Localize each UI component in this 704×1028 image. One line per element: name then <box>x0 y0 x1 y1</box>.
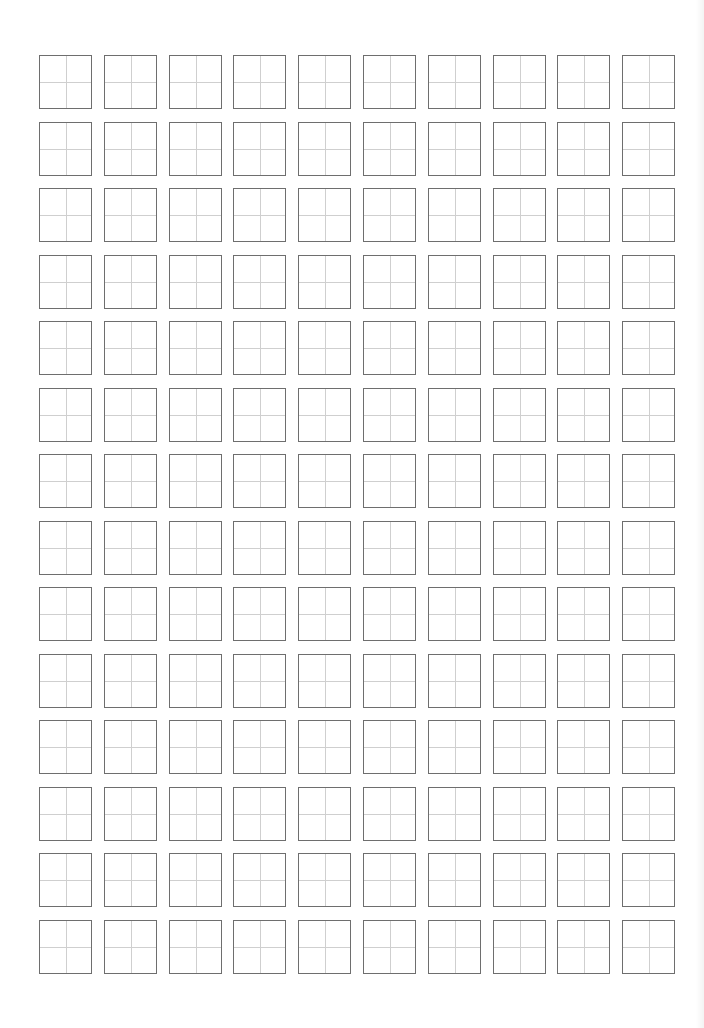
tianzige-box <box>557 321 610 375</box>
tianzige-box <box>622 55 675 109</box>
tianzige-box <box>233 454 286 508</box>
tianzige-box <box>233 255 286 309</box>
tianzige-box <box>298 787 351 841</box>
tianzige-box <box>557 787 610 841</box>
tianzige-box <box>39 454 92 508</box>
tianzige-box <box>298 521 351 575</box>
tianzige-box <box>363 920 416 974</box>
tianzige-box <box>39 321 92 375</box>
tianzige-box <box>233 654 286 708</box>
tianzige-box <box>493 920 546 974</box>
tianzige-box <box>169 255 222 309</box>
tianzige-box <box>233 787 286 841</box>
tianzige-box <box>104 654 157 708</box>
tianzige-box <box>557 720 610 774</box>
tianzige-box <box>104 853 157 907</box>
tianzige-box <box>298 587 351 641</box>
tianzige-box <box>169 720 222 774</box>
tianzige-box <box>363 654 416 708</box>
tianzige-box <box>39 521 92 575</box>
tianzige-box <box>557 255 610 309</box>
tianzige-box <box>169 321 222 375</box>
tianzige-box <box>428 920 481 974</box>
tianzige-box <box>428 388 481 442</box>
tianzige-box <box>233 920 286 974</box>
tianzige-box <box>233 122 286 176</box>
tianzige-box <box>233 55 286 109</box>
tianzige-box <box>493 654 546 708</box>
tianzige-box <box>298 454 351 508</box>
tianzige-box <box>622 388 675 442</box>
tianzige-box <box>557 55 610 109</box>
tianzige-box <box>169 521 222 575</box>
tianzige-box <box>39 853 92 907</box>
tianzige-box <box>622 321 675 375</box>
tianzige-box <box>363 388 416 442</box>
tianzige-box <box>428 454 481 508</box>
tianzige-box <box>428 720 481 774</box>
tianzige-box <box>39 122 92 176</box>
tianzige-box <box>493 55 546 109</box>
tianzige-box <box>622 188 675 242</box>
tianzige-box <box>169 587 222 641</box>
tianzige-box <box>428 521 481 575</box>
tianzige-box <box>493 188 546 242</box>
tianzige-box <box>39 787 92 841</box>
tianzige-box <box>428 188 481 242</box>
tianzige-box <box>233 188 286 242</box>
tianzige-box <box>622 654 675 708</box>
tianzige-box <box>104 321 157 375</box>
tianzige-box <box>363 587 416 641</box>
tianzige-box <box>428 587 481 641</box>
tianzige-box <box>233 321 286 375</box>
tianzige-box <box>622 787 675 841</box>
tianzige-box <box>493 454 546 508</box>
tianzige-box <box>363 188 416 242</box>
tianzige-box <box>233 521 286 575</box>
tianzige-box <box>104 920 157 974</box>
tianzige-box <box>622 920 675 974</box>
tianzige-box <box>363 521 416 575</box>
tianzige-box <box>557 587 610 641</box>
tianzige-box <box>104 521 157 575</box>
tianzige-box <box>233 720 286 774</box>
tianzige-box <box>622 521 675 575</box>
tianzige-box <box>363 255 416 309</box>
tianzige-box <box>169 654 222 708</box>
tianzige-box <box>622 720 675 774</box>
tianzige-box <box>557 188 610 242</box>
tianzige-box <box>363 454 416 508</box>
tianzige-box <box>298 255 351 309</box>
tianzige-box <box>169 920 222 974</box>
tianzige-box <box>169 853 222 907</box>
tianzige-box <box>557 853 610 907</box>
tianzige-box <box>428 321 481 375</box>
tianzige-box <box>428 122 481 176</box>
tianzige-box <box>622 454 675 508</box>
page-edge-shadow <box>696 0 704 1028</box>
tianzige-box <box>298 55 351 109</box>
tianzige-box <box>428 787 481 841</box>
tianzige-box <box>493 587 546 641</box>
tianzige-box <box>39 388 92 442</box>
tianzige-box <box>493 321 546 375</box>
tianzige-box <box>39 920 92 974</box>
tianzige-box <box>169 122 222 176</box>
tianzige-box <box>104 454 157 508</box>
tianzige-box <box>493 521 546 575</box>
tianzige-box <box>363 720 416 774</box>
tianzige-box <box>622 255 675 309</box>
tianzige-box <box>298 654 351 708</box>
tianzige-box <box>493 720 546 774</box>
tianzige-box <box>233 388 286 442</box>
tianzige-box <box>557 122 610 176</box>
tianzige-box <box>104 122 157 176</box>
tianzige-box <box>39 188 92 242</box>
tianzige-box <box>298 188 351 242</box>
tianzige-box <box>104 255 157 309</box>
tianzige-box <box>557 454 610 508</box>
tianzige-box <box>233 587 286 641</box>
tianzige-box <box>298 321 351 375</box>
tianzige-box <box>104 787 157 841</box>
tianzige-box <box>298 122 351 176</box>
